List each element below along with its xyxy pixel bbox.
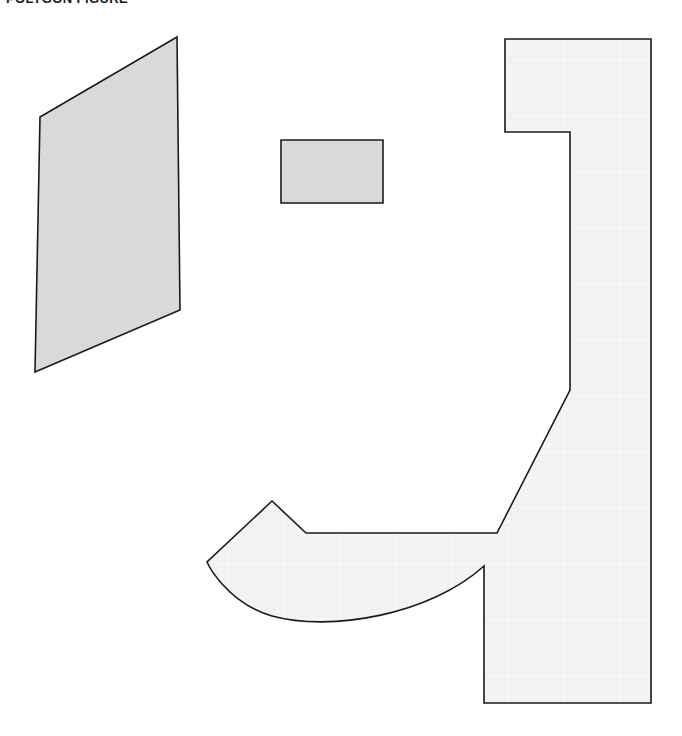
figure-root: POLYGON FIGURE (0, 0, 682, 736)
figure-canvas (0, 0, 682, 736)
shape-hook-polygon (207, 39, 651, 703)
shape-skewed-quadrilateral (35, 37, 180, 372)
shape-small-rectangle (281, 140, 383, 203)
